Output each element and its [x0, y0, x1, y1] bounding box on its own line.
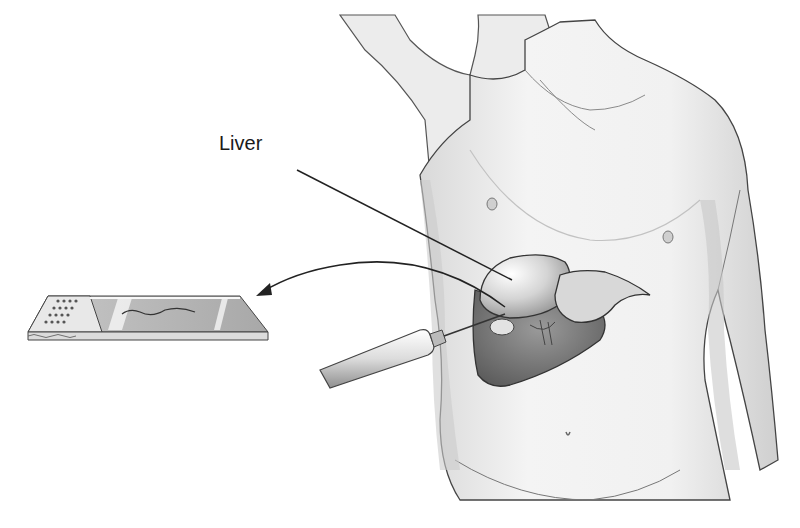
right-nipple: [663, 231, 673, 243]
torso: [340, 15, 778, 500]
illustration-canvas: [0, 0, 800, 528]
liver-label: Liver: [219, 132, 262, 155]
syringe-barrel: [320, 330, 434, 388]
left-nipple: [487, 198, 497, 210]
microscope-slide: [28, 296, 268, 340]
gallbladder: [490, 319, 514, 335]
arrowhead-icon: [256, 283, 272, 296]
